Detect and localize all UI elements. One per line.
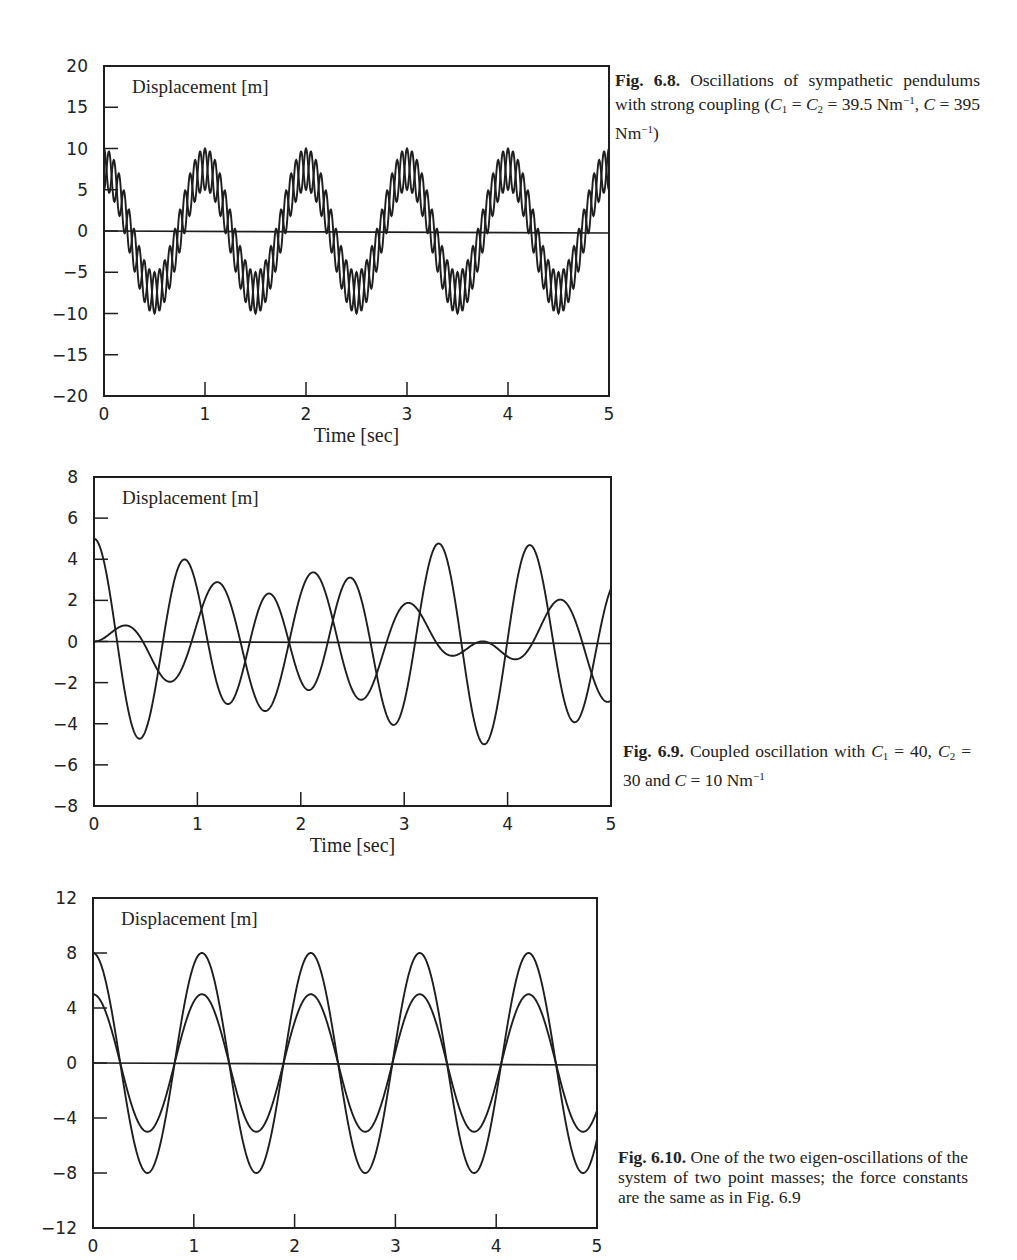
y-tick-label: 4 (66, 998, 77, 1018)
x-tick-label: 4 (502, 814, 513, 834)
y-tick-label: −6 (53, 755, 78, 775)
x-tick-label: 2 (301, 404, 312, 424)
y-tick-label: 20 (66, 56, 88, 76)
y-tick-label: 5 (77, 180, 88, 200)
y-tick-label: −20 (52, 386, 88, 406)
zero-line (104, 231, 609, 233)
inner-axis-label: Displacement [m] (122, 487, 259, 508)
x-tick-label: 2 (289, 1236, 300, 1256)
caption-label: Fig. 6.8. (615, 70, 680, 90)
caption-fig-6-10: Fig. 6.10. One of the two eigen-oscillat… (618, 1147, 968, 1207)
x-tick-label: 2 (295, 814, 306, 834)
chart-1: 20151050−5−10−15−20012345Time [sec]Displ… (52, 56, 614, 446)
series-pendulum-1 (104, 149, 609, 311)
y-tick-label: 15 (66, 97, 88, 117)
x-tick-label: 5 (604, 404, 615, 424)
caption-label: Fig. 6.9. (623, 741, 684, 761)
inner-axis-label: Displacement [m] (132, 76, 269, 97)
x-axis-label: Time [sec] (314, 424, 399, 446)
y-tick-label: −8 (53, 796, 78, 816)
x-tick-label: 1 (188, 1236, 199, 1256)
y-tick-label: 8 (67, 467, 78, 487)
y-tick-label: 8 (66, 943, 77, 963)
y-tick-label: 6 (67, 508, 78, 528)
y-tick-label: 0 (77, 221, 88, 241)
x-tick-label: 4 (503, 404, 514, 424)
x-tick-label: 0 (99, 404, 110, 424)
chart-2: 86420−2−4−6−8012345Time [sec]Displacemen… (53, 467, 616, 856)
caption-fig-6-9: Fig. 6.9. Coupled oscillation with C1 = … (623, 741, 971, 790)
y-tick-label: 0 (67, 632, 78, 652)
y-tick-label: 4 (67, 549, 78, 569)
x-tick-label: 1 (200, 404, 211, 424)
chart-3: 12840−4−8−12012345Displacement [m] (41, 888, 602, 1256)
y-tick-label: 10 (66, 139, 88, 159)
x-tick-label: 3 (390, 1236, 401, 1256)
y-tick-label: −2 (53, 673, 78, 693)
x-tick-label: 0 (88, 1236, 99, 1256)
x-tick-label: 3 (399, 814, 410, 834)
y-tick-label: −12 (41, 1218, 77, 1238)
x-tick-label: 1 (192, 814, 203, 834)
x-tick-label: 5 (592, 1236, 603, 1256)
zero-line (93, 1063, 597, 1065)
y-tick-label: −4 (52, 1108, 77, 1128)
caption-label: Fig. 6.10. (618, 1147, 686, 1167)
y-tick-label: 0 (66, 1053, 77, 1073)
y-tick-label: 2 (67, 590, 78, 610)
y-tick-label: 12 (55, 888, 77, 908)
y-tick-label: −8 (52, 1163, 77, 1183)
inner-axis-label: Displacement [m] (121, 908, 258, 929)
x-axis-label: Time [sec] (310, 834, 395, 856)
x-tick-label: 4 (491, 1236, 502, 1256)
x-tick-label: 3 (402, 404, 413, 424)
y-tick-label: −4 (53, 714, 78, 734)
caption-fig-6-8: Fig. 6.8. Oscillations of sympathetic pe… (615, 70, 980, 143)
y-tick-label: −10 (52, 304, 88, 324)
y-tick-label: −5 (63, 262, 88, 282)
y-tick-label: −15 (52, 345, 88, 365)
x-tick-label: 0 (89, 814, 100, 834)
figure-plots: 20151050−5−10−15−20012345Time [sec]Displ… (0, 0, 1017, 1260)
x-tick-label: 5 (606, 814, 617, 834)
